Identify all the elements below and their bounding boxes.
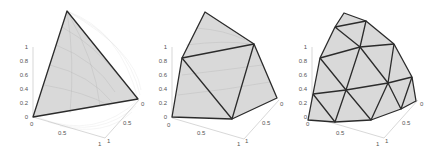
y-tick-labels: 0 0.5 1 — [107, 101, 145, 144]
z-tick-labels: 1 0.8 0.6 0.4 0.2 0 — [299, 44, 308, 120]
x-tick: 0.5 — [336, 130, 345, 136]
figure: 1 0.8 0.6 0.4 0.2 0 0 0.5 1 0 0.5 1 — [0, 0, 444, 152]
z-tick-labels: 1 0.8 0.6 0.4 0.2 0 — [20, 44, 29, 120]
z-tick-labels: 1 0.8 0.6 0.4 0.2 0 — [159, 44, 168, 120]
z-tick: 0 — [25, 114, 29, 120]
panel-1: 1 0.8 0.6 0.4 0.2 0 0 0.5 1 0 0.5 1 — [20, 11, 145, 147]
y-tick: 0 — [141, 101, 145, 107]
z-tick: 0.4 — [159, 86, 168, 92]
panel-3: 1 0.8 0.6 0.4 0.2 0 0 0.5 1 0 0.5 1 — [299, 13, 424, 147]
x-tick: 1 — [376, 141, 380, 147]
z-tick: 1 — [25, 44, 29, 50]
z-tick: 0.2 — [299, 100, 308, 106]
z-tick: 0 — [304, 114, 308, 120]
z-tick: 0.4 — [20, 86, 29, 92]
plots-canvas: 1 0.8 0.6 0.4 0.2 0 0 0.5 1 0 0.5 1 — [0, 0, 444, 152]
y-tick: 0.5 — [262, 120, 271, 126]
y-tick: 1 — [107, 138, 111, 144]
x-tick-labels: 0 0.5 1 — [306, 121, 380, 147]
x-tick: 0 — [30, 121, 34, 127]
z-tick: 0.6 — [20, 72, 29, 78]
z-tick: 0.8 — [159, 58, 168, 64]
y-tick: 0 — [420, 101, 424, 107]
z-tick: 0.6 — [159, 72, 168, 78]
z-tick: 0.6 — [299, 72, 308, 78]
x-tick-labels: 0 0.5 1 — [167, 122, 241, 147]
x-tick: 0 — [306, 121, 310, 127]
y-tick: 0.5 — [123, 120, 132, 126]
z-tick: 1 — [304, 44, 308, 50]
x-tick: 1 — [237, 141, 241, 147]
x-tick: 1 — [98, 141, 102, 147]
y-tick: 1 — [385, 138, 389, 144]
y-tick: 0 — [280, 101, 284, 107]
z-tick: 0.2 — [159, 100, 168, 106]
z-tick: 0.4 — [299, 86, 308, 92]
x-tick: 0 — [167, 122, 171, 128]
z-tick: 0.8 — [20, 58, 29, 64]
x-tick: 0.5 — [58, 130, 67, 136]
z-tick: 0.2 — [20, 100, 29, 106]
y-tick: 0.5 — [402, 120, 411, 126]
x-tick: 0.5 — [197, 130, 206, 136]
panel-2: 1 0.8 0.6 0.4 0.2 0 0 0.5 1 0 0.5 1 — [159, 12, 284, 147]
z-tick: 0.8 — [299, 58, 308, 64]
z-tick: 0 — [164, 114, 168, 120]
y-tick: 1 — [245, 138, 249, 144]
z-tick: 1 — [164, 44, 168, 50]
